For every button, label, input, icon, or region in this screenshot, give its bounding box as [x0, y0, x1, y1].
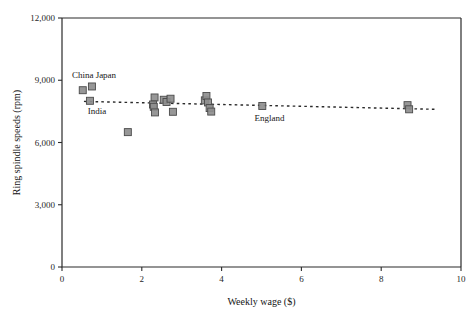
- data-point: [208, 108, 215, 115]
- data-point: [169, 108, 176, 115]
- annotation-label: England: [254, 113, 284, 123]
- annotation-label: China: [72, 70, 94, 80]
- data-point: [167, 95, 174, 102]
- x-tick-label: 8: [379, 274, 384, 284]
- x-tick-label: 10: [457, 274, 467, 284]
- data-points: [79, 83, 412, 136]
- annotation-label: Japan: [96, 70, 117, 80]
- chart-figure: 03,0006,0009,00012,0000246810 ChinaJapan…: [0, 0, 474, 321]
- x-tick-label: 2: [140, 274, 145, 284]
- y-tick-label: 6,000: [35, 138, 56, 148]
- y-tick-label: 0: [51, 262, 56, 272]
- scatter-plot: 03,0006,0009,00012,0000246810 ChinaJapan…: [0, 0, 474, 321]
- axes: 03,0006,0009,00012,0000246810: [30, 13, 466, 284]
- y-axis-title: Ring spindle speeds (rpm): [11, 90, 23, 195]
- x-tick-label: 4: [219, 274, 224, 284]
- data-point: [151, 109, 158, 116]
- data-point: [124, 129, 131, 136]
- y-tick-label: 3,000: [35, 200, 56, 210]
- data-point: [203, 93, 210, 100]
- axis-frame: [62, 18, 461, 267]
- x-tick-label: 0: [60, 274, 65, 284]
- annotation-label: India: [88, 106, 107, 116]
- data-point: [259, 102, 266, 109]
- data-point: [79, 87, 86, 94]
- x-axis-title: Weekly wage ($): [227, 296, 295, 308]
- x-tick-label: 6: [299, 274, 304, 284]
- y-tick-label: 9,000: [35, 75, 56, 85]
- data-point: [86, 97, 93, 104]
- y-tick-label: 12,000: [30, 13, 55, 23]
- data-point: [406, 106, 413, 113]
- point-annotations: ChinaJapanIndiaEngland: [72, 70, 285, 124]
- data-point: [151, 94, 158, 101]
- axis-titles: Weekly wage ($)Ring spindle speeds (rpm): [11, 90, 296, 308]
- data-point: [88, 83, 95, 90]
